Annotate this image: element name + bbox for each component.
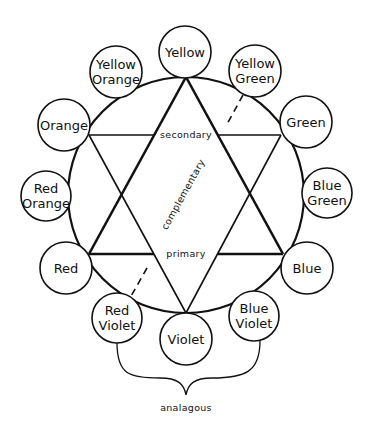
color-node-green: Green bbox=[280, 96, 332, 148]
color-node-label: Orange bbox=[40, 118, 88, 133]
color-node-label: Red bbox=[34, 181, 59, 196]
color-wheel-diagram: secondary primary complementary analagou… bbox=[0, 0, 370, 435]
color-node-red-violet: RedViolet bbox=[92, 293, 142, 343]
color-node-label: Violet bbox=[99, 318, 136, 333]
color-node-label: Orange bbox=[22, 196, 70, 211]
color-node-label: Blue bbox=[293, 261, 322, 276]
complementary-label: complementary bbox=[159, 157, 207, 231]
primary-triangle bbox=[89, 77, 283, 254]
color-node-label: Violet bbox=[168, 332, 205, 347]
color-node-label: Green bbox=[235, 71, 274, 86]
color-node-label: Green bbox=[307, 193, 346, 208]
color-node-label: Red bbox=[105, 303, 130, 318]
color-node-label: Yellow bbox=[164, 45, 205, 60]
color-node-label: Yellow bbox=[234, 56, 275, 71]
color-node-yellow-orange: YellowOrange bbox=[90, 46, 142, 98]
color-node-label: Yellow bbox=[95, 57, 136, 72]
color-node-label: Orange bbox=[92, 72, 140, 87]
color-node-yellow-green: YellowGreen bbox=[229, 45, 281, 97]
color-node-label: Blue bbox=[240, 301, 269, 316]
color-node-violet: Violet bbox=[160, 313, 212, 365]
secondary-label: secondary bbox=[160, 129, 212, 140]
color-node-blue: Blue bbox=[281, 242, 333, 294]
color-node-blue-violet: BlueViolet bbox=[229, 291, 279, 341]
color-node-yellow: Yellow bbox=[159, 26, 211, 78]
color-node-label: Blue bbox=[313, 178, 342, 193]
color-node-label: Violet bbox=[236, 316, 273, 331]
analagous-label: analagous bbox=[160, 402, 212, 413]
color-node-label: Green bbox=[286, 115, 325, 130]
color-node-blue-green: BlueGreen bbox=[302, 168, 352, 218]
secondary-triangle bbox=[89, 135, 281, 313]
color-node-red: Red bbox=[40, 242, 92, 294]
color-node-label: Red bbox=[54, 261, 79, 276]
primary-label: primary bbox=[166, 248, 205, 259]
color-node-orange: Orange bbox=[38, 99, 90, 151]
color-node-red-orange: RedOrange bbox=[21, 171, 71, 221]
